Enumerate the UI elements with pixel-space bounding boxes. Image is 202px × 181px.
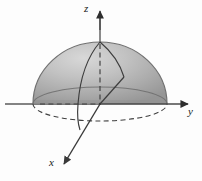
y-axis-label: y (188, 106, 193, 117)
z-axis-label: z (84, 3, 88, 14)
origin-point (99, 103, 101, 105)
hemisphere-diagram-canvas (0, 0, 202, 181)
hemisphere-figure: z y x (0, 0, 202, 181)
x-axis-label: x (49, 157, 54, 168)
